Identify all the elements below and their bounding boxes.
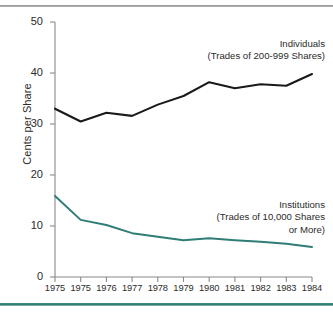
- y-tick-label: 0: [17, 270, 43, 282]
- annotation-institutions: Institutions (Trades of 10,000 Shares or…: [217, 199, 325, 236]
- x-tick-label: 1976: [93, 283, 119, 293]
- x-tick-marks: [55, 277, 312, 282]
- x-tick-label: 1983: [273, 283, 299, 293]
- annotation-institutions-line1: Institutions: [217, 199, 325, 211]
- x-tick-label: 1984: [299, 283, 325, 293]
- x-tick-label: 1975: [42, 283, 68, 293]
- y-tick-label: 40: [17, 66, 43, 78]
- x-tick-label: 1980: [196, 283, 222, 293]
- annotation-individuals-line1: Individuals: [208, 38, 326, 50]
- x-tick-label: 1975: [68, 283, 94, 293]
- annotation-individuals-line2: (Trades of 200-999 Shares): [208, 50, 326, 62]
- y-tick-label: 30: [17, 117, 43, 129]
- x-tick-label: 1978: [145, 283, 171, 293]
- y-tick-label: 50: [17, 15, 43, 27]
- chart-figure: Cents per Share 01020304050 197519751976…: [0, 0, 333, 317]
- y-tick-marks: [50, 22, 55, 277]
- annotation-institutions-line3: or More): [217, 224, 325, 236]
- series-line-individuals: [55, 74, 312, 121]
- annotation-individuals: Individuals (Trades of 200-999 Shares): [208, 38, 326, 63]
- x-tick-label: 1979: [171, 283, 197, 293]
- x-tick-label: 1982: [248, 283, 274, 293]
- annotation-institutions-line2: (Trades of 10,000 Shares: [217, 211, 325, 223]
- y-tick-label: 10: [17, 219, 43, 231]
- x-tick-label: 1981: [222, 283, 248, 293]
- x-tick-label: 1977: [119, 283, 145, 293]
- y-tick-label: 20: [17, 168, 43, 180]
